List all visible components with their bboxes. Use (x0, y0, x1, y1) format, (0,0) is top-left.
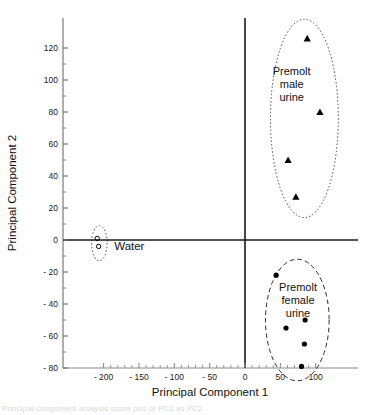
plot-frame (63, 18, 358, 368)
male-cluster-ellipse (270, 19, 338, 217)
y-tick-label: 20 (49, 203, 59, 213)
data-point-marker (304, 35, 311, 42)
x-tick-label: 50 (276, 372, 286, 382)
cluster-annotation-line: male (280, 78, 304, 90)
data-point-marker (302, 341, 307, 346)
data-point-marker (283, 325, 288, 330)
y-tick-label: 100 (44, 75, 58, 85)
origin-axes (63, 18, 358, 368)
data-point-marker (292, 193, 299, 200)
data-point-marker (274, 273, 279, 278)
y-axis-tick-labels: - 80- 60- 40- 20020406080100120 (43, 43, 58, 373)
x-tick-label: - 100 (165, 372, 185, 382)
data-point-marker (316, 108, 323, 115)
data-point-marker (96, 244, 100, 248)
x-tick-label: 100 (309, 372, 323, 382)
cluster-annotation-line: Water (114, 240, 144, 252)
x-axis-ticks (104, 363, 316, 368)
y-tick-label: 40 (49, 171, 59, 181)
x-tick-label: 0 (243, 372, 248, 382)
cluster-annotation-line: urine (286, 307, 310, 319)
y-axis-ticks (63, 48, 68, 368)
cluster-annotation-line: female (282, 294, 315, 306)
water-cluster-ellipse (92, 226, 108, 261)
cluster-annotations: PremoltmaleurinePremoltfemaleurineWater (114, 65, 317, 319)
data-point-marker (285, 156, 292, 163)
figure-caption: Principal component analysis score plot … (0, 403, 376, 415)
cluster-annotation-line: urine (279, 91, 303, 103)
y-tick-label: 0 (53, 235, 58, 245)
y-tick-label: - 40 (43, 299, 58, 309)
data-point-marker (299, 364, 304, 369)
x-axis-title: Principal Component 1 (152, 386, 268, 398)
x-tick-label: - 200 (94, 372, 114, 382)
y-tick-label: - 20 (43, 267, 58, 277)
cluster-annotation-line: Premolt (279, 281, 317, 293)
y-tick-label: - 60 (43, 331, 58, 341)
x-tick-label: - 150 (129, 372, 149, 382)
pca-plot-canvas: - 80- 60- 40- 20020406080100120 - 200- 1… (0, 0, 376, 415)
y-tick-label: 60 (49, 139, 59, 149)
pca-scatter-figure: - 80- 60- 40- 20020406080100120 - 200- 1… (0, 0, 376, 415)
y-tick-label: - 80 (43, 363, 58, 373)
x-axis-tick-labels: - 200- 150- 100- 50050100 (94, 372, 323, 382)
y-tick-label: 120 (44, 43, 58, 53)
y-tick-label: 80 (49, 107, 59, 117)
cluster-annotation-line: Premolt (273, 65, 311, 77)
y-axis-title: Principal Component 2 (6, 135, 18, 251)
x-tick-label: - 50 (202, 372, 217, 382)
